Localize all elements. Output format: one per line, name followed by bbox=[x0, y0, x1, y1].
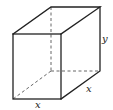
front-face bbox=[13, 34, 61, 99]
box-diagram: y x x bbox=[0, 0, 113, 110]
top-face bbox=[13, 7, 100, 34]
hidden-depth-edge bbox=[13, 71, 51, 99]
label-width: x bbox=[35, 99, 41, 110]
label-height: y bbox=[101, 33, 108, 44]
label-depth: x bbox=[86, 83, 92, 94]
